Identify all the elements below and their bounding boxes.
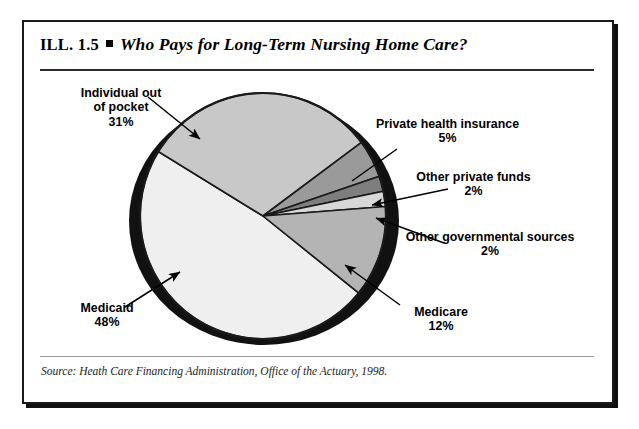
slice-label-line1: Medicaid [80,301,133,315]
slice-value-private-health-insurance: 5% [360,131,535,145]
slice-label-line2: of pocket [93,100,148,114]
slice-value-medicaid: 48% [48,315,166,329]
header-divider [40,69,594,71]
source-note: Source: Heath Care Financing Administrat… [41,365,387,377]
slice-label-other-governmental-sources: Other governmental sources 2% [392,230,588,259]
illustration-number: ILL. 1.5 [40,35,99,55]
square-bullet-icon [106,40,113,47]
slice-label-other-private-funds: Other private funds 2% [396,170,551,199]
slice-label-medicare: Medicare 12% [392,305,490,334]
footer-divider [40,356,594,357]
slice-label-individual-out-of-pocket: Individual out of pocket 31% [56,86,186,129]
slice-label-line1: Other private funds [416,170,530,184]
slice-value-medicare: 12% [392,319,490,333]
slice-value-individual-out-of-pocket: 31% [56,115,186,129]
slice-label-private-health-insurance: Private health insurance 5% [360,117,535,146]
page-title: Who Pays for Long-Term Nursing Home Care… [120,34,468,55]
illustration-header: ILL. 1.5 Who Pays for Long-Term Nursing … [40,34,596,64]
slice-value-other-private-funds: 2% [396,184,551,198]
slice-label-medicaid: Medicaid 48% [48,301,166,330]
slice-label-line1: Medicare [414,305,468,319]
illustration-frame: ILL. 1.5 Who Pays for Long-Term Nursing … [22,20,614,404]
slice-value-other-governmental-sources: 2% [392,244,588,258]
illustration-page: ILL. 1.5 Who Pays for Long-Term Nursing … [0,0,639,429]
slice-label-line1: Private health insurance [376,117,519,131]
slice-label-line1: Individual out [81,86,162,100]
slice-label-line1: Other governmental sources [406,230,575,244]
